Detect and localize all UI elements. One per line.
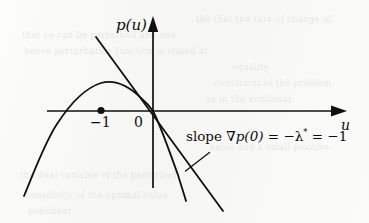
plot-canvas (0, 0, 369, 223)
slope-annotation-gradient: ∇p(0) (226, 128, 267, 144)
slope-annotation: slope ∇p(0) = −λ* = −1 (186, 128, 347, 143)
origin-tick-label-text: 0 (134, 114, 143, 130)
perturbation-curve (24, 82, 186, 201)
annotation-leader-line (186, 153, 210, 172)
figure-container: the that the rate of change of that ve c… (0, 0, 369, 223)
slope-annotation-prefix: slope (186, 128, 226, 144)
y-axis-label-text: p(u) (116, 16, 147, 34)
origin-tick-label: 0 (134, 115, 143, 129)
minus-one-tick-label-text: −1 (90, 114, 111, 130)
minus-one-tick-label: −1 (90, 115, 111, 129)
tangent-line (96, 37, 223, 211)
y-axis (148, 16, 158, 188)
y-axis-label: p(u) (116, 18, 147, 33)
slope-annotation-equals-lambda: = −λ (268, 128, 303, 144)
slope-annotation-equals-value: = −1 (307, 128, 347, 144)
